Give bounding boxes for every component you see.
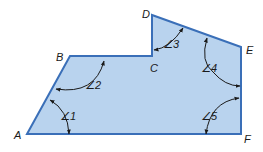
angle-label-4: ∠4 — [201, 62, 217, 74]
angle-label-1: ∠1 — [60, 110, 76, 122]
angle-label-2: ∠2 — [85, 79, 101, 91]
polygon-diagram: A B C D E F ∠1 ∠2 ∠3 ∠4 ∠5 — [0, 0, 263, 152]
vertex-label-e: E — [246, 44, 254, 56]
angle-label-3: ∠3 — [163, 38, 180, 50]
vertex-label-a: A — [13, 129, 21, 141]
vertex-label-d: D — [142, 8, 150, 20]
vertex-label-f: F — [244, 133, 252, 145]
vertex-label-b: B — [56, 51, 63, 63]
angle-label-5: ∠5 — [201, 110, 218, 122]
vertex-label-c: C — [150, 62, 158, 74]
